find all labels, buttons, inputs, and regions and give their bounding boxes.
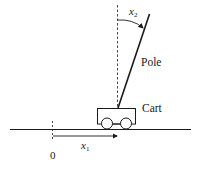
- cart-pole-diagram: Pole Cart 0 x1 x2: [0, 0, 200, 169]
- cart-wheel-left: [102, 118, 113, 129]
- x2-angle-arc: [118, 20, 144, 28]
- x1-label: x1: [80, 139, 90, 153]
- pole-label: Pole: [141, 56, 161, 68]
- origin-label: 0: [50, 149, 56, 161]
- x2-label: x2: [128, 5, 138, 19]
- x2-label-subscript: 2: [134, 11, 138, 19]
- cart-wheel-right: [121, 118, 132, 129]
- cart-label: Cart: [142, 102, 163, 114]
- x1-label-subscript: 1: [86, 145, 90, 153]
